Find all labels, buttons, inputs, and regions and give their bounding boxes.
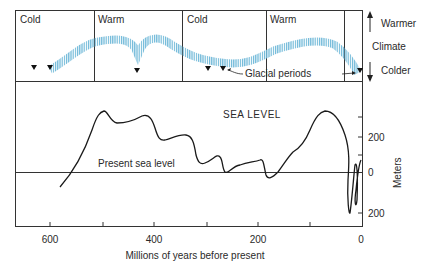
warmer-label: Warmer: [381, 18, 417, 29]
y-tick-200-upper: 200: [368, 132, 385, 143]
glacial-markers: [31, 65, 363, 73]
sea-level-panel: Present sea level SEA LEVEL 200 0 200 Me…: [15, 82, 403, 261]
sea-level-climate-diagram: Cold Warm Cold Warm Glacial periods: [0, 0, 422, 269]
glacial-marker: [31, 65, 37, 70]
y-tick-0: 0: [368, 167, 374, 178]
glacial-marker: [205, 66, 211, 71]
sea-level-title: SEA LEVEL: [223, 109, 281, 120]
period-label-warm-2: Warm: [270, 14, 296, 25]
glacial-periods-label: Glacial periods: [245, 68, 311, 79]
x-axis-label: Millions of years before present: [126, 250, 265, 261]
present-sea-level-label: Present sea level: [98, 158, 175, 169]
climate-label: Climate: [372, 41, 406, 52]
climate-curve: [50, 39, 358, 73]
period-label-warm-1: Warm: [98, 14, 124, 25]
x-tick-0: 0: [358, 234, 364, 245]
arrow-down-icon: [367, 75, 373, 82]
climate-axis: Warmer Climate Colder: [367, 11, 417, 82]
x-tick-400: 400: [146, 234, 163, 245]
colder-label: Colder: [381, 65, 411, 76]
glacial-marker: [134, 68, 140, 73]
climate-panel: Cold Warm Cold Warm Glacial periods: [16, 10, 364, 82]
x-tick-600: 600: [42, 234, 59, 245]
period-label-cold-2: Cold: [187, 14, 208, 25]
arrow-up-icon: [367, 11, 373, 18]
y-tick-200-lower: 200: [368, 208, 385, 219]
glacial-marker: [220, 66, 226, 71]
period-label-cold-1: Cold: [20, 14, 41, 25]
x-tick-200: 200: [250, 234, 267, 245]
y-axis-label: Meters: [392, 157, 403, 188]
